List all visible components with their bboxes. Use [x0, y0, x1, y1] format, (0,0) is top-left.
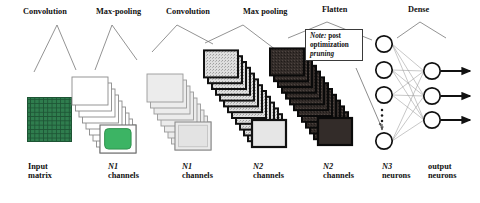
n2b-line2: channels: [323, 172, 354, 181]
activation-patch-green: [105, 129, 132, 150]
label-input-matrix: Input matrix: [28, 163, 52, 180]
n1a-line1: N1: [108, 162, 118, 171]
n3-line2: neurons: [382, 172, 410, 181]
note-line-2: optimization: [310, 41, 349, 49]
cnn-architecture-figure: Convolution Max-pooling Convolution Max …: [0, 0, 480, 203]
output-node-2: [424, 88, 440, 104]
n3-neuron-layer: [376, 36, 392, 149]
label-n2-channels-a: N2 channels: [253, 163, 284, 180]
output-node-1: [424, 63, 440, 79]
out-line2: neurons: [428, 172, 456, 181]
stack-feature-maps-pool1: [147, 74, 211, 150]
note-line-1: post: [328, 32, 341, 40]
n2b-line1: N2: [323, 162, 333, 171]
dense-edges: [392, 44, 424, 141]
note-box: Note: post optimization pruning: [305, 29, 363, 61]
n3-line1: N3: [382, 162, 392, 171]
input-matrix-line1: Input: [28, 162, 48, 171]
label-n1-channels-b: N1 channels: [182, 163, 213, 180]
n3-node-last: [376, 133, 392, 149]
label-n3-neurons: N3 neurons: [382, 163, 410, 180]
label-n2-channels-b: N2 channels: [323, 163, 354, 180]
n3-ellipsis-dots: [381, 109, 384, 123]
label-convolution-1: Convolution: [23, 8, 67, 17]
n1b-line2: channels: [182, 172, 213, 181]
n2a-line2: channels: [253, 172, 284, 181]
label-flatten: Flatten: [322, 6, 347, 15]
note-line-3: pruning: [310, 50, 334, 58]
output-neuron-layer: [424, 63, 440, 128]
label-convolution-2: Convolution: [166, 8, 210, 17]
activation-patch-gray-1: [179, 125, 208, 147]
n2a-line1: N2: [253, 162, 263, 171]
input-matrix-line2: matrix: [28, 172, 52, 181]
leader-dense: [397, 22, 446, 38]
label-max-pooling-2: Max pooling: [243, 8, 288, 17]
label-max-pooling-1: Max-pooling: [96, 8, 141, 17]
label-dense: Dense: [408, 6, 429, 15]
n3-node-3: [376, 87, 392, 103]
leader-convolution-2: [152, 25, 213, 52]
note-label: Note:: [310, 32, 326, 40]
output-node-3: [424, 112, 440, 128]
input-matrix-grid: [28, 98, 72, 142]
n3-node-1: [376, 36, 392, 52]
output-arrows: [441, 71, 470, 120]
out-line1: output: [428, 162, 452, 171]
label-n1-channels-a: N1 channels: [108, 163, 139, 180]
n1b-line1: N1: [182, 162, 192, 171]
n3-node-2: [376, 62, 392, 78]
label-output-neurons: output neurons: [428, 163, 456, 180]
leader-max-pooling-2: [205, 25, 276, 50]
n1a-line2: channels: [108, 172, 139, 181]
stack-feature-maps-conv1: [72, 77, 136, 153]
leader-max-pooling-1: [95, 25, 137, 70]
leader-convolution-1: [34, 25, 76, 72]
